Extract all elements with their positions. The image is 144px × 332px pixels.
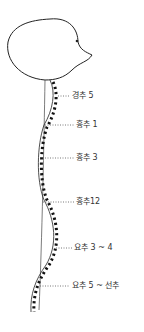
vertebrae-dots [34,82,57,312]
eye-icon [76,40,79,43]
label-cervical-5: 경추 5 [72,91,94,101]
label-thoracic-3: 흉추 3 [76,153,98,163]
label-lumbar-5-sacrum: 요추 5 ~ 선추 [72,281,119,291]
label-thoracic-1: 흉추 1 [76,120,98,130]
label-lumbar-3-4: 요추 3 ~ 4 [74,243,113,253]
head-outline [8,19,92,80]
label-thoracic-12: 흉추12 [76,197,100,207]
leader-lines [40,96,74,286]
